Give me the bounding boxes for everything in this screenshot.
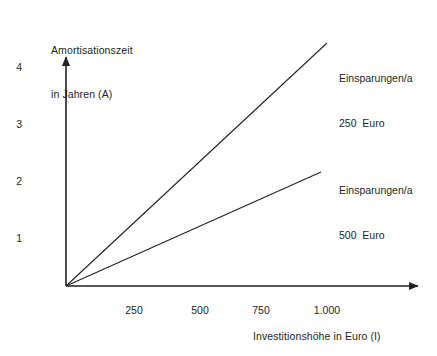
chart-container: Amortisationszeit in Jahren (A) Investit…: [0, 0, 437, 356]
y-axis-title-line-2: in Jahren (A): [51, 87, 133, 102]
series-annotation-250-line-2: 250 Euro: [339, 116, 413, 131]
x-tick-label-750: 750: [233, 304, 289, 316]
x-tick-label-1000: 1.000: [299, 304, 355, 316]
y-tick-label-3: 3: [0, 118, 22, 130]
x-tick-label-500: 500: [172, 304, 228, 316]
y-tick-label-4: 4: [0, 61, 22, 73]
y-axis-title: Amortisationszeit in Jahren (A): [51, 14, 133, 130]
series-annotation-500-line-1: Einsparungen/a: [339, 183, 413, 198]
y-axis-title-line-1: Amortisationszeit: [51, 43, 133, 58]
series-annotation-einsparungen-500: Einsparungen/a 500 Euro: [339, 153, 413, 273]
x-axis-title: Investitionshöhe in Euro (I): [253, 329, 381, 344]
y-tick-label-2: 2: [0, 175, 22, 187]
series-line-einsparungen-500: [66, 172, 321, 286]
y-tick-label-1: 1: [0, 232, 22, 244]
series-annotation-250-line-1: Einsparungen/a: [339, 71, 413, 86]
series-annotation-einsparungen-250: Einsparungen/a 250 Euro: [339, 41, 413, 161]
x-tick-label-250: 250: [106, 304, 162, 316]
series-annotation-500-line-2: 500 Euro: [339, 228, 413, 243]
